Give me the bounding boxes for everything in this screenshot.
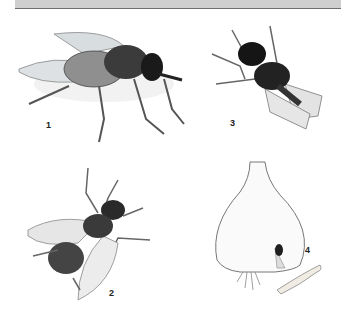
figure-label-4: 4 <box>305 246 310 255</box>
illustration-plate: 1 3 2 <box>0 0 341 326</box>
fly-side-icon <box>14 24 189 144</box>
figure-label-1: 1 <box>46 121 51 130</box>
header-bar <box>15 0 341 9</box>
onion-bulb-icon <box>205 160 335 300</box>
figure-label-3: 3 <box>230 119 235 128</box>
fly-dark-icon <box>210 24 330 134</box>
fly-top-icon <box>18 168 158 308</box>
figure-label-2: 2 <box>109 289 114 298</box>
